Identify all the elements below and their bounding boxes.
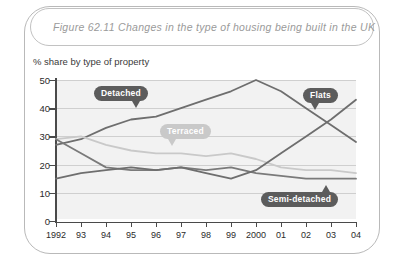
callout-tail-icon (311, 103, 319, 110)
callout-tail-icon (168, 139, 176, 146)
callout-tail-icon (322, 185, 330, 192)
callout-detached: Detached (94, 86, 148, 101)
callout-tail-icon (132, 101, 140, 108)
callout-terraced: Terraced (160, 124, 211, 139)
figure-container: Figure 62.11 Changes in the type of hous… (0, 0, 404, 261)
callout-semi-detached: Semi-detached (261, 192, 338, 207)
series-line-terraced (56, 136, 356, 173)
callout-flats: Flats (303, 88, 338, 103)
